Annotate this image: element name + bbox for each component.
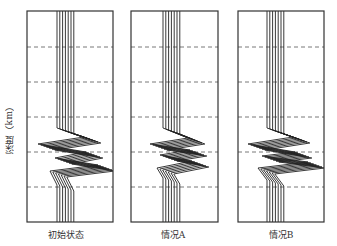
trace-bundle	[38, 11, 115, 222]
panel-case-b	[238, 11, 325, 222]
trace-bundle	[248, 11, 325, 222]
figure-canvas	[0, 0, 337, 246]
panel-initial	[27, 11, 115, 222]
panel-label-case-b: 情况B	[269, 228, 294, 241]
panel-case-a	[131, 11, 218, 222]
panel-label-initial: 初始状态	[48, 228, 84, 241]
y-axis-label: 深度（km）	[2, 100, 24, 156]
panel-label-case-a: 情况A	[161, 228, 186, 241]
panel-frame	[27, 11, 113, 222]
trace-bundle	[150, 11, 209, 222]
